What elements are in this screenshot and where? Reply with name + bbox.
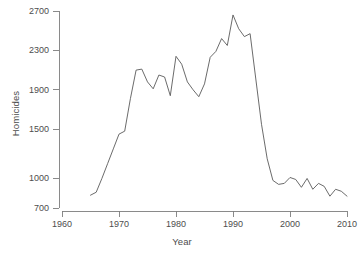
line-chart-canvas [0, 0, 364, 256]
x-tick-label: 2010 [337, 219, 357, 229]
y-tick-label: 1900 [29, 85, 49, 95]
x-tick-label: 1960 [52, 219, 72, 229]
data-series-line [91, 15, 348, 196]
y-tick-label: 1000 [29, 173, 49, 183]
x-tick-label: 2000 [280, 219, 300, 229]
y-tick-label: 1500 [29, 124, 49, 134]
x-tick-label: 1970 [109, 219, 129, 229]
y-tick-label: 2300 [29, 45, 49, 55]
x-tick-label: 1990 [223, 219, 243, 229]
y-tick-label: 2700 [29, 6, 49, 16]
x-tick-label: 1980 [166, 219, 186, 229]
chart-plot-area: Homicides Year 70010001500190023002700 1… [0, 0, 364, 256]
y-tick-label: 700 [34, 203, 49, 213]
